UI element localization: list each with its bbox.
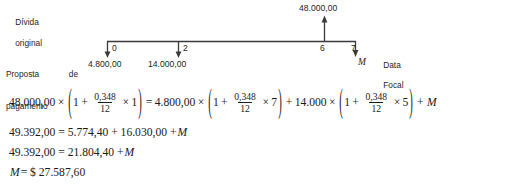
tick-2 (176, 42, 182, 59)
multiply-sign-5: × (327, 96, 338, 109)
eq4-result-text: = $ 27.587,60 (21, 166, 86, 179)
fraction-numerator: 0,348 (92, 92, 118, 102)
timeline-axis (0, 0, 514, 84)
plus-sign-3: + (283, 96, 294, 109)
eq1-unknown: M (426, 96, 438, 109)
eq3-text: 49.392,00 = 21.804,40 + (9, 146, 124, 159)
multiply-sign: × (55, 96, 66, 109)
fraction-denominator: 12 (369, 102, 383, 113)
close-paren-icon-2: ) (277, 86, 283, 119)
focal-date-line2: Focal (383, 80, 403, 90)
fraction-denominator: 12 (238, 102, 252, 113)
fraction-rate-2: 0,348 12 (232, 92, 258, 114)
focal-date-line1: Data (383, 60, 401, 70)
plus-sign-4: + (350, 96, 361, 109)
fraction-rate-3: 0,348 12 (363, 92, 389, 114)
fraction-rate-1: 0,348 12 (92, 92, 118, 114)
equation-line-2: 49.392,00 = 5.774,40 + 16.030,00 + M (9, 126, 188, 139)
equation-line-3: 49.392,00 = 21.804,40 + M (9, 146, 135, 159)
focal-unknown-symbol: M (358, 57, 366, 67)
open-paren-icon-2: ( (207, 86, 213, 119)
eq2-text: 49.392,00 = 5.774,40 + 16.030,00 + (9, 126, 176, 139)
tick-6 (322, 16, 328, 42)
tick-label-6: 6 (320, 43, 325, 53)
tick-0 (105, 42, 111, 59)
timeline-diagram: Dívida original Proposta de pagamento 48… (0, 0, 514, 84)
eq1-group-1: 1 + 0,348 12 1 (73, 92, 137, 114)
multiply-sign-4 (260, 96, 271, 109)
amount-4800: 4.800,00 (88, 59, 121, 69)
eq1-group-3: 1 + 0,348 12 5 (344, 92, 408, 114)
plus-sign-2: + (219, 96, 230, 109)
eq1-factor-b: 7 (271, 96, 277, 109)
tick-label-2: 2 (183, 43, 188, 53)
eq1-group-2: 1 + 0,348 12 7 (213, 92, 277, 114)
fraction-numerator: 0,348 (232, 92, 258, 102)
eq3-unknown: M (124, 146, 136, 159)
eq2-unknown: M (176, 126, 188, 139)
equals-sign: = (143, 96, 154, 109)
close-paren-icon-3: ) (409, 86, 415, 119)
plus-sign: + (79, 96, 90, 109)
multiply-sign-6 (391, 96, 402, 109)
eq1-rhs-value: 4.800,00 (155, 96, 196, 109)
eq4-unknown: M (9, 166, 21, 179)
tick-label-7: 7 (351, 43, 356, 53)
equation-line-1: 48.000,00 × ( 1 + 0,348 12 1 ) = 4.800,0… (9, 92, 438, 114)
close-paren-icon: ) (137, 86, 143, 119)
equation-line-4-result: M = $ 27.587,60 (9, 166, 85, 179)
eq1-term3-value: 14.000 (295, 96, 327, 109)
multiply-sign-3: × (195, 96, 206, 109)
amount-14000: 14.000,00 (148, 59, 186, 69)
tick-label-0: 0 (112, 43, 117, 53)
fraction-denominator: 12 (98, 102, 112, 113)
multiply-sign-2 (120, 96, 131, 109)
open-paren-icon: ( (67, 86, 73, 119)
eq1-lhs-value: 48.000,00 (9, 96, 55, 109)
open-paren-icon-3: ( (338, 86, 344, 119)
plus-sign-5: + (415, 96, 426, 109)
fraction-numerator: 0,348 (363, 92, 389, 102)
